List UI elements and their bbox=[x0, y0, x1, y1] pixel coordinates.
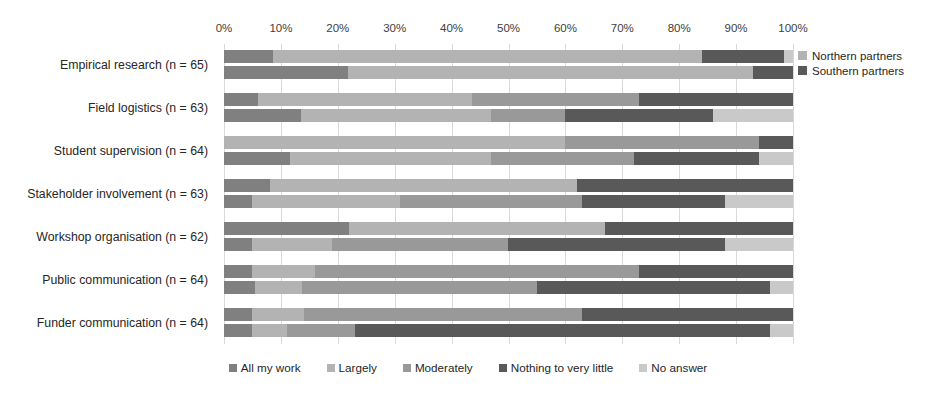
bar-segment bbox=[759, 136, 793, 149]
x-tick-label: 30% bbox=[383, 22, 406, 34]
bar-segment bbox=[332, 238, 508, 251]
bar-segment bbox=[255, 281, 302, 294]
legend-label: Largely bbox=[339, 361, 377, 374]
x-tick-label: 90% bbox=[725, 22, 748, 34]
legend-item: Nothing to very little bbox=[499, 361, 614, 374]
gridline bbox=[736, 44, 737, 344]
bar-row bbox=[224, 195, 793, 208]
y-axis-category-label: Workshop organisation (n = 62) bbox=[36, 230, 208, 244]
bar-segment bbox=[639, 93, 793, 106]
bar-segment bbox=[491, 152, 633, 165]
bar-segment bbox=[713, 109, 793, 122]
x-tick-label: 40% bbox=[440, 22, 463, 34]
legend-swatch-icon bbox=[499, 364, 507, 372]
bar-segment bbox=[304, 308, 583, 321]
bar-segment bbox=[759, 152, 793, 165]
legend-label: Moderately bbox=[415, 361, 473, 374]
bar-segment bbox=[224, 308, 252, 321]
bar-segment bbox=[287, 324, 355, 337]
bar-segment bbox=[224, 324, 252, 337]
stacked-bar-chart: 0%10%20%30%40%50%60%70%80%90%100% Empiri… bbox=[0, 0, 936, 404]
x-tick-label: 10% bbox=[269, 22, 292, 34]
bar-row bbox=[224, 265, 793, 278]
bar-segment bbox=[302, 281, 537, 294]
bar-segment bbox=[224, 93, 258, 106]
y-axis-category-label: Stakeholder involvement (n = 63) bbox=[27, 187, 208, 201]
bar-segment bbox=[784, 50, 793, 63]
y-axis-category-label: Empirical research (n = 65) bbox=[60, 58, 208, 72]
legend-item: No answer bbox=[639, 361, 707, 374]
bar-segment bbox=[224, 281, 255, 294]
gridline bbox=[679, 44, 680, 344]
bar-segment bbox=[224, 50, 273, 63]
legend-item: Moderately bbox=[403, 361, 473, 374]
bar-segment bbox=[702, 50, 785, 63]
bar-segment bbox=[753, 66, 793, 79]
response-level-legend: All my workLargelyModeratelyNothing to v… bbox=[0, 361, 936, 374]
bar-segment bbox=[472, 93, 640, 106]
bar-segment bbox=[565, 136, 758, 149]
bar-segment bbox=[252, 195, 400, 208]
bar-segment bbox=[224, 109, 301, 122]
x-tick-label: 100% bbox=[778, 22, 807, 34]
legend-label: Nothing to very little bbox=[511, 361, 614, 374]
bar-segment bbox=[537, 281, 770, 294]
bar-segment bbox=[224, 265, 252, 278]
series-legend-item: Southern partners bbox=[798, 63, 936, 78]
gridline bbox=[793, 44, 794, 344]
legend-item: Largely bbox=[327, 361, 377, 374]
x-tick-label: 50% bbox=[497, 22, 520, 34]
bar-segment bbox=[582, 195, 724, 208]
bar-segment bbox=[400, 195, 582, 208]
gridlines bbox=[224, 44, 793, 344]
legend-label: All my work bbox=[241, 361, 301, 374]
series-side-legend: Northern partnersSouthern partners bbox=[798, 48, 936, 78]
bar-row bbox=[224, 281, 793, 294]
bar-segment bbox=[224, 195, 252, 208]
bar-segment bbox=[348, 66, 753, 79]
bar-segment bbox=[565, 109, 713, 122]
gridline bbox=[281, 44, 282, 344]
gridline bbox=[338, 44, 339, 344]
bar-segment bbox=[290, 152, 491, 165]
y-axis-category-label: Funder communication (n = 64) bbox=[37, 316, 208, 330]
bar-segment bbox=[634, 152, 759, 165]
legend-label: No answer bbox=[651, 361, 707, 374]
x-tick-label: 60% bbox=[554, 22, 577, 34]
bar-segment bbox=[508, 238, 724, 251]
bar-segment bbox=[582, 308, 793, 321]
legend-swatch-icon bbox=[327, 364, 335, 372]
series-legend-item: Northern partners bbox=[798, 48, 936, 63]
series-legend-label: Northern partners bbox=[812, 50, 902, 62]
bar-row bbox=[224, 66, 793, 79]
x-tick-label: 80% bbox=[668, 22, 691, 34]
bar-row bbox=[224, 324, 793, 337]
y-axis-category-label: Public communication (n = 64) bbox=[42, 273, 208, 287]
bar-segment bbox=[725, 195, 793, 208]
plot-area bbox=[224, 44, 793, 344]
bar-segment bbox=[224, 66, 348, 79]
bar-row bbox=[224, 93, 793, 106]
legend-swatch-icon bbox=[403, 364, 411, 372]
bar-segment bbox=[577, 179, 793, 192]
bar-row bbox=[224, 222, 793, 235]
series-legend-swatch-icon bbox=[798, 66, 807, 75]
gridline bbox=[452, 44, 453, 344]
bar-segment bbox=[224, 238, 252, 251]
y-axis-category-label: Student supervision (n = 64) bbox=[54, 144, 208, 158]
bar-segment bbox=[491, 109, 565, 122]
gridline bbox=[509, 44, 510, 344]
bar-row bbox=[224, 136, 793, 149]
bar-row bbox=[224, 238, 793, 251]
bar-segment bbox=[770, 281, 793, 294]
bar-segment bbox=[605, 222, 793, 235]
y-axis-category-label: Field logistics (n = 63) bbox=[88, 101, 208, 115]
bar-segment bbox=[224, 152, 290, 165]
bar-segment bbox=[725, 238, 793, 251]
legend-item: All my work bbox=[229, 361, 301, 374]
bar-segment bbox=[315, 265, 639, 278]
bar-segment bbox=[301, 109, 492, 122]
bar-segment bbox=[770, 324, 793, 337]
bar-segment bbox=[252, 308, 303, 321]
bar-row bbox=[224, 308, 793, 321]
